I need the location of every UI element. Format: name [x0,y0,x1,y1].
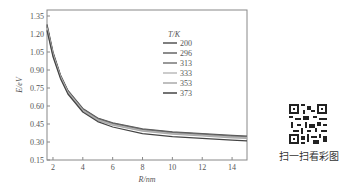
qr-caption: 扫一扫看彩图 [279,148,339,163]
plot-frame [47,10,247,160]
x-tick-label: 12 [198,163,206,172]
x-axis-label: R/nm [138,175,156,184]
y-tick-label: 1.35 [30,12,44,21]
qr-code[interactable] [289,104,327,144]
series-line-373 [47,30,247,140]
y-axis-label: E/eV [15,76,24,94]
series-line-200 [47,24,247,136]
line-chart: 0.150.300.450.600.750.901.051.201.352468… [0,0,270,191]
x-tick-label: 10 [168,163,176,172]
y-tick-label: 0.90 [30,66,44,75]
legend-label: 333 [180,69,192,78]
x-tick-label: 6 [111,163,115,172]
y-tick-label: 1.20 [30,30,44,39]
series-line-353 [47,29,247,138]
legend-label: 296 [180,49,192,58]
series-line-333 [47,28,247,138]
legend-label: 200 [180,39,192,48]
y-tick-label: 1.05 [30,48,44,57]
qr-code-icon [289,104,327,144]
y-tick-label: 0.15 [30,156,44,165]
y-tick-label: 0.75 [30,84,44,93]
legend-label: 353 [180,79,192,88]
series-line-313 [47,27,247,137]
x-tick-label: 8 [141,163,145,172]
y-tick-label: 0.30 [30,138,44,147]
y-tick-label: 0.45 [30,120,44,129]
series-line-296 [47,26,247,137]
x-tick-label: 4 [81,163,85,172]
x-tick-label: 14 [228,163,236,172]
legend-label: 373 [180,89,192,98]
y-tick-label: 0.60 [30,102,44,111]
legend-label: 313 [180,59,192,68]
legend-title: T/K [168,30,181,39]
x-tick-label: 2 [51,163,55,172]
